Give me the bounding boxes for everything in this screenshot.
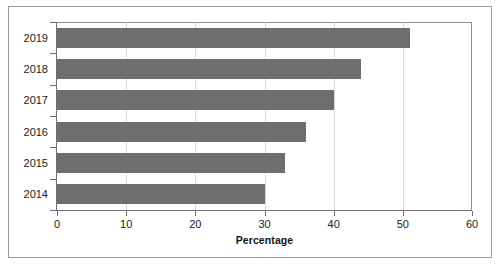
bar-row (57, 59, 472, 79)
gridline (265, 22, 266, 210)
y-axis-tick (50, 53, 56, 54)
x-axis-label-50: 50 (383, 218, 423, 231)
bar-row (57, 153, 472, 173)
bar-2014[interactable] (57, 184, 265, 204)
y-axis-label-2019: 2019 (2, 32, 48, 44)
x-axis-tick (265, 211, 266, 216)
x-axis-label-0: 0 (37, 218, 77, 231)
x-axis-label-40: 40 (314, 218, 354, 231)
bar-row (57, 90, 472, 110)
x-axis-label-60: 60 (452, 218, 492, 231)
bar-2016[interactable] (57, 122, 306, 142)
y-axis-label-2016: 2016 (2, 126, 48, 138)
y-axis-tick (50, 147, 56, 148)
x-axis-title: Percentage (57, 234, 472, 246)
bar-2019[interactable] (57, 28, 410, 48)
x-axis-tick (126, 211, 127, 216)
y-axis-line (56, 22, 57, 211)
y-axis-tick (50, 22, 56, 23)
y-axis-tick (50, 179, 56, 180)
bar-chart-figure: 201920182017201620152014 0102030405060 P… (0, 0, 501, 267)
bar-2018[interactable] (57, 59, 361, 79)
y-axis-label-2017: 2017 (2, 94, 48, 106)
gridline (334, 22, 335, 210)
plot-area (57, 22, 472, 210)
x-axis-tick (472, 211, 473, 216)
x-axis-tick (334, 211, 335, 216)
x-axis-label-20: 20 (175, 218, 215, 231)
gridline (195, 22, 196, 210)
plot-right-border (471, 22, 472, 210)
x-axis-label-30: 30 (245, 218, 285, 231)
y-axis-tick (50, 85, 56, 86)
gridline (403, 22, 404, 210)
bar-row (57, 28, 472, 48)
x-axis-tick (195, 211, 196, 216)
y-axis-label-2015: 2015 (2, 157, 48, 169)
bar-2017[interactable] (57, 90, 334, 110)
y-axis-label-2014: 2014 (2, 188, 48, 200)
bar-2015[interactable] (57, 153, 285, 173)
x-axis-tick (57, 211, 58, 216)
y-axis-tick (50, 210, 56, 211)
y-axis-label-2018: 2018 (2, 63, 48, 75)
y-axis-tick (50, 116, 56, 117)
x-axis-label-10: 10 (106, 218, 146, 231)
gridline (126, 22, 127, 210)
bar-row (57, 184, 472, 204)
bar-row (57, 122, 472, 142)
x-axis-tick (403, 211, 404, 216)
